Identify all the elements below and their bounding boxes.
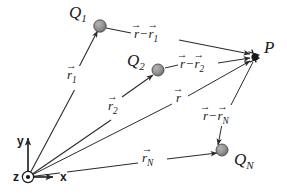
axis-label-y: y <box>17 135 24 147</box>
charge-label-Q2: Q2 <box>127 52 145 72</box>
charge-dot-Q2 <box>152 64 164 76</box>
vector-arrow-icon: → <box>217 102 228 113</box>
vector-arrow-icon: → <box>66 61 77 72</box>
charge-label-Q1: Q1 <box>69 4 87 24</box>
charge-dot-QN <box>216 144 228 156</box>
vector-label-r1: →r1 <box>66 68 78 85</box>
vector-line-r1 <box>28 31 98 177</box>
field-point-label-P: P <box>264 39 274 56</box>
charge-label-QN: QN <box>234 151 254 171</box>
field-point-marker <box>249 50 259 62</box>
charge-dot-Q1 <box>94 20 106 32</box>
vector-label-r-minus-rN: →r−→rN <box>202 109 230 126</box>
vector-diagram-figure: Q1 Q2 QN P →r1 →r2 →r →rN →r−→r1 →r−→r2 … <box>0 0 287 195</box>
vector-line-rN <box>28 153 217 177</box>
vector-label-r2: →r2 <box>107 99 119 116</box>
axis-label-z: z <box>13 171 19 183</box>
vector-label-r: →r <box>175 91 182 104</box>
vector-arrow-icon: → <box>142 144 153 155</box>
vector-arrow-icon: → <box>173 84 184 95</box>
vector-line-r2 <box>28 75 153 177</box>
vector-arrow-icon: → <box>107 92 118 103</box>
vector-arrow-icon: → <box>131 20 142 31</box>
z-axis-out-of-page-dot <box>26 175 30 179</box>
axis-label-x: x <box>60 171 67 183</box>
vector-arrow-icon: → <box>200 102 211 113</box>
vector-arrow-icon: → <box>193 50 204 61</box>
vector-label-r-minus-r1: →r−→r1 <box>133 27 159 44</box>
vector-arrow-icon: → <box>177 50 188 61</box>
vector-label-r-minus-r2: →r−→r2 <box>179 57 205 74</box>
vector-label-rN: →rN <box>141 151 154 168</box>
vector-arrow-icon: → <box>147 20 158 31</box>
